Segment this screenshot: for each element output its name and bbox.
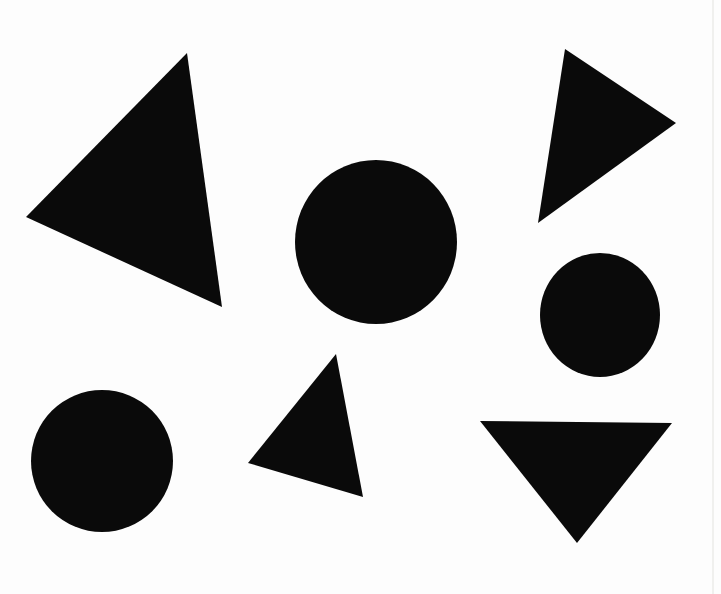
paper-cutout-scene (0, 0, 721, 594)
center-circle (295, 160, 457, 324)
right-circle (540, 253, 660, 377)
page-edge-line (712, 0, 714, 594)
bottom-left-circle (31, 390, 173, 532)
shapes-canvas (0, 0, 721, 594)
